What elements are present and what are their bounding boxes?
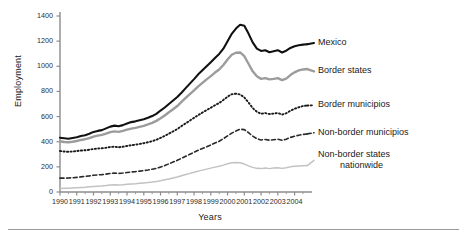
series-label: Border states <box>318 65 372 76</box>
x-tick-label: 2004 <box>284 197 306 206</box>
series-line-border-states <box>60 52 307 142</box>
figure-bottom-rule <box>8 229 459 230</box>
series-leader-stub <box>307 133 314 134</box>
y-tick-label: 1400 <box>19 11 53 20</box>
series-label: Non-border municipios <box>318 127 409 138</box>
series-leader-stub <box>307 69 314 71</box>
series-label-line1: Non-border states <box>318 149 390 159</box>
series-label: Mexico <box>318 37 347 48</box>
y-tick-label: 1200 <box>19 36 53 45</box>
series-leader-stub <box>307 160 314 165</box>
y-axis-title: Employment <box>13 39 23 123</box>
y-tick-label: 400 <box>19 137 53 146</box>
series-leader-stub <box>307 43 314 44</box>
y-tick-label: 800 <box>19 86 53 95</box>
x-axis-title: Years <box>150 212 270 222</box>
employment-line-chart-figure: Employment Years 02004006008001000120014… <box>0 0 467 236</box>
y-tick-label: 1000 <box>19 61 53 70</box>
series-label-line2: nationwide <box>318 160 390 171</box>
y-tick-label: 600 <box>19 112 53 121</box>
y-tick-label: 200 <box>19 162 53 171</box>
series-line-mexico <box>60 25 307 139</box>
y-tick-label: 0 <box>19 187 53 196</box>
series-line-border-municipios <box>60 94 307 152</box>
series-label: Border municipios <box>318 99 390 110</box>
series-label: Non-border statesnationwide <box>318 149 390 171</box>
